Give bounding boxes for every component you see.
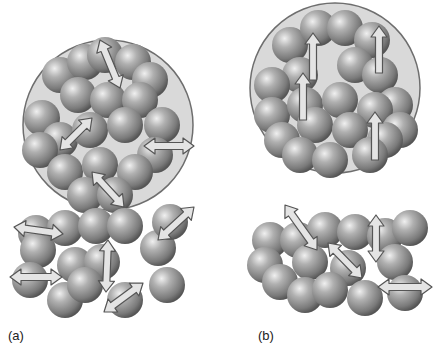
panel-b-aligned-orientation: [247, 3, 432, 316]
sphere: [149, 267, 185, 303]
magnetic-domain-diagram: [0, 0, 434, 351]
panel-label-a: (a): [8, 328, 24, 343]
sphere: [377, 244, 413, 280]
sphere: [282, 137, 318, 173]
panel-label-b: (b): [258, 328, 274, 343]
sphere: [347, 280, 383, 316]
sphere: [107, 107, 143, 143]
sphere: [392, 210, 428, 246]
sphere: [387, 275, 423, 311]
sphere: [107, 208, 143, 244]
sphere: [312, 142, 348, 178]
sphere: [67, 267, 103, 303]
sphere: [144, 107, 180, 143]
sphere: [60, 77, 96, 113]
panel-a-random-orientation: [10, 37, 194, 318]
sphere: [352, 137, 388, 173]
sphere: [312, 272, 348, 308]
